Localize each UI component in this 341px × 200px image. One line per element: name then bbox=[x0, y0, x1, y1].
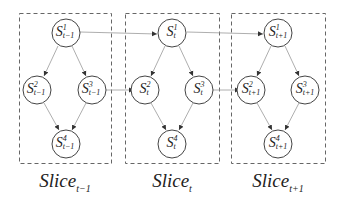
node-s4-t: S4t bbox=[167, 136, 178, 152]
node-s4-t-minus-1: S4t−1 bbox=[56, 136, 75, 152]
node-s2-t-minus-1: S2t−1 bbox=[27, 82, 46, 98]
node-s4-t-plus-1: S4t+1 bbox=[269, 136, 288, 152]
node-s1-t: S1t bbox=[167, 25, 178, 41]
node-s2-t: S2t bbox=[140, 82, 151, 98]
node-s3-t-minus-1: S3t−1 bbox=[82, 82, 101, 98]
slice-caption-t-plus-1: Slicet+1 bbox=[252, 170, 303, 192]
node-s3-t-plus-1: S3t+1 bbox=[296, 82, 315, 98]
slice-caption-t-minus-1: Slicet−1 bbox=[39, 170, 90, 192]
node-s3-t: S3t bbox=[194, 82, 205, 98]
slice-caption-t: Slicet bbox=[152, 170, 192, 192]
node-s2-t-plus-1: S2t+1 bbox=[242, 82, 261, 98]
node-s1-t-plus-1: S1t+1 bbox=[269, 25, 288, 41]
node-s1-t-minus-1: S1t−1 bbox=[56, 25, 75, 41]
